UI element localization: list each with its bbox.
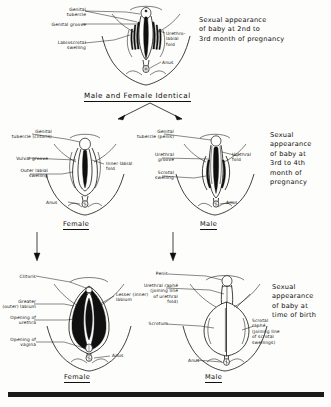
figure-title-male-stage3: Male	[205, 373, 222, 383]
figure-title-male-stage2: Male	[200, 220, 217, 230]
scan-edge-bar	[8, 392, 324, 397]
caption-stage-2: Sexual appearance of baby at 3rd to 4th …	[270, 131, 312, 187]
label-genital-tubercle-clitoris: Genital tubercle (clitoris)	[0, 129, 52, 140]
figure-root: Genital tubercle Genital groove Labioscr…	[0, 0, 331, 407]
label-anus-male-stage3: Anus	[188, 358, 199, 363]
label-greater-outer-labium: Greater (outer) labium	[0, 299, 36, 310]
label-outer-labial-swelling: Outer labial swelling	[0, 168, 48, 179]
label-urethral-raphe: Urethral raphé (joining line of urethral…	[136, 283, 178, 305]
label-anus-female-stage2: Anus	[46, 200, 57, 205]
branch-arrows	[70, 102, 230, 124]
label-anus-male-stage2: Anus	[226, 200, 237, 205]
label-opening-of-vagina: Opening of vagina	[0, 337, 36, 348]
caption-stage-1: Sexual appearance of baby at 2nd to 3rd …	[199, 16, 284, 44]
label-genital-groove: Genital groove	[34, 22, 86, 27]
figure-title-female-stage3: Female	[64, 373, 90, 383]
section-title-identical: Male and Female Identical	[84, 91, 191, 102]
label-scrotal-swelling: Scrotal swelling	[128, 170, 174, 181]
down-arrow-male	[166, 232, 180, 262]
label-scrotal-raphe: Scrotal raphé (joining line of scrotal s…	[252, 318, 280, 345]
figure-title-female-stage2: Female	[63, 220, 89, 230]
label-labioscrotal-swelling: Labioscrotal swelling	[38, 40, 86, 51]
label-urethro-labial-fold: Urethro- labial fold	[166, 31, 185, 47]
label-genital-tubercle: Genital tubercle	[44, 7, 86, 18]
label-scrotum: Scrotum	[138, 321, 168, 326]
label-anus-stage1: Anus	[162, 60, 173, 65]
male-stage2-drawing	[172, 126, 258, 218]
down-arrow-female	[30, 232, 44, 262]
label-penis: Penis	[140, 271, 168, 276]
label-urethral-groove: Urethral groove	[128, 152, 174, 163]
label-opening-of-urethra: Opening of urethra	[0, 315, 36, 326]
label-anus-female-stage3: Anus	[112, 353, 123, 358]
caption-stage-3: Sexual appearance of baby at time of bir…	[272, 283, 316, 321]
label-vulval-groove: Vulval groove	[0, 156, 48, 161]
label-urethral-fold: Urethral fold	[232, 152, 251, 163]
label-genital-tubercle-penis: Genital tubercle (penis)	[124, 129, 174, 140]
label-clitoris: Clitoris	[4, 274, 36, 279]
